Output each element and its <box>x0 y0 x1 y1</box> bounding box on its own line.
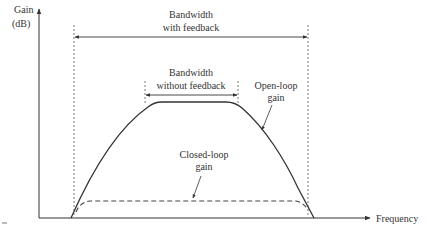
bw-feedback-label-2: with feedback <box>163 22 219 33</box>
open-loop-label-1: Open-loop <box>255 80 298 91</box>
open-loop-label-2: gain <box>267 92 284 103</box>
closed-loop-label-1: Closed-loop <box>180 149 229 160</box>
bw-nofeedback-label-1: Bandwidth <box>169 67 213 78</box>
x-axis-label: Frequency <box>376 213 418 224</box>
y-axis-unit-label: (dB) <box>12 18 30 30</box>
bandwidth-with-feedback-markers <box>74 25 308 216</box>
open-loop-pointer <box>262 105 272 130</box>
closed-loop-pointer <box>193 176 201 198</box>
closed-loop-gain-curve <box>76 201 308 212</box>
y-axis-label: Gain <box>14 4 33 15</box>
bw-feedback-label-1: Bandwidth <box>169 9 213 20</box>
closed-loop-label-2: gain <box>195 161 212 172</box>
bw-nofeedback-label-2: without feedback <box>156 80 225 91</box>
gain-frequency-diagram: Gain (dB) Frequency Bandwidth with feedb… <box>0 0 427 227</box>
